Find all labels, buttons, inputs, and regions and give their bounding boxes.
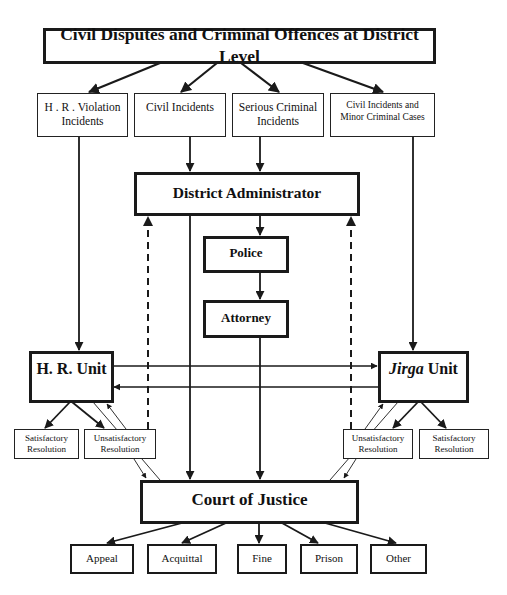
outcome-appeal-label: Appeal [86,552,118,566]
left-unsatisfactory-line2: Resolution [94,444,146,455]
arrow-left-unsat-to-hr [107,404,126,429]
outcome-prison-label: Prison [315,552,343,566]
category-hr-violation: H . R . Violation Incidents [37,93,128,137]
arrow-court-to-appeal [107,523,182,543]
category-civil-minor: Civil Incidents and Minor Criminal Cases [330,93,435,137]
category-serious-criminal: Serious Criminal Incidents [232,93,324,137]
hr-unit-box: H. R. Unit [29,351,114,403]
court-of-justice-label: Court of Justice [191,489,307,510]
right-satisfactory-resolution: Satisfactory Resolution [419,429,489,459]
category-civil-minor-line2: Minor Criminal Cases [340,112,424,124]
right-unsatisfactory-resolution: Unsatisfactory Resolution [343,429,413,459]
category-serious-line1: Serious Criminal [239,100,317,114]
left-satisfactory-line2: Resolution [25,444,68,455]
left-satisfactory-line1: Satisfactory [25,433,68,444]
outcome-other: Other [370,544,427,574]
right-satisfactory-line2: Resolution [433,444,476,455]
outcome-fine-label: Fine [252,552,272,566]
attorney-label: Attorney [221,310,271,326]
outcome-acquittal-label: Acquittal [162,552,203,566]
outcome-other-label: Other [386,552,411,566]
category-civil-line1: Civil Incidents [146,100,214,114]
arrow-court-to-acquittal [182,523,226,543]
arrow-hr-to-left-satisfactory [45,402,70,428]
arrow-hr-to-left-unsatisfactory [72,402,104,428]
left-satisfactory-resolution: Satisfactory Resolution [14,429,79,459]
attorney-box: Attorney [203,300,289,338]
right-unsatisfactory-line1: Unsatisfactory [352,433,404,444]
category-hr-violation-line2: Incidents [45,114,121,128]
left-unsatisfactory-resolution: Unsatisfactory Resolution [84,429,156,459]
hr-unit-label: H. R. Unit [36,359,106,379]
category-hr-violation-line1: H . R . Violation [45,100,121,114]
jirga-unit-label-italic: Jirga [389,360,424,377]
arrow-court-to-other [325,523,396,543]
title-box: Civil Disputes and Criminal Offences at … [43,28,436,64]
category-serious-line2: Incidents [239,114,317,128]
outcome-fine: Fine [237,544,287,574]
outcome-acquittal: Acquittal [147,544,217,574]
right-satisfactory-line1: Satisfactory [433,433,476,444]
police-box: Police [203,236,289,273]
police-label: Police [229,245,262,261]
flow-diagram: Civil Disputes and Criminal Offences at … [0,0,507,595]
district-administrator-label: District Administrator [173,183,322,202]
jirga-unit-box: Jirga Unit [378,351,469,403]
arrow-court-to-prison [282,523,318,543]
category-civil: Civil Incidents [134,93,226,137]
outcome-appeal: Appeal [70,544,134,574]
jirga-unit-label-rest: Unit [424,360,458,377]
right-unsatisfactory-line2: Resolution [352,444,404,455]
category-civil-minor-line1: Civil Incidents and [340,100,424,112]
court-of-justice-box: Court of Justice [140,480,359,524]
district-administrator-box: District Administrator [134,172,360,216]
title-text: Civil Disputes and Criminal Offences at … [46,24,433,68]
arrow-right-unsat-to-jirga [365,404,383,429]
left-unsatisfactory-line1: Unsatisfactory [94,433,146,444]
arrow-jirga-to-right-satisfactory [421,402,446,428]
outcome-prison: Prison [300,544,358,574]
arrow-jirga-to-right-unsatisfactory [393,402,418,428]
